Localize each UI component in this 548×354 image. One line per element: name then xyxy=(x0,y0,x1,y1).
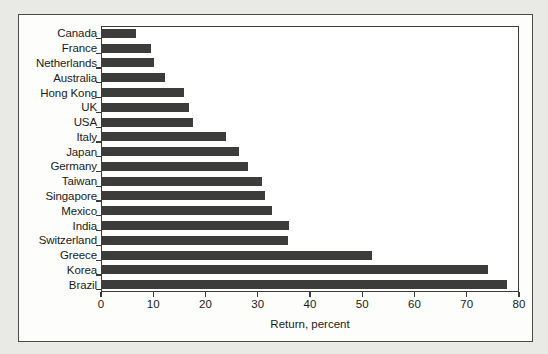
category-label: Singapore xyxy=(19,190,97,202)
category-tick-mark xyxy=(96,186,101,187)
category-tick-mark xyxy=(96,67,101,68)
value-tick-label: 0 xyxy=(98,298,104,310)
figure-container: CanadaFranceNetherlandsAustraliaHong Kon… xyxy=(18,14,533,342)
value-tick-label: 20 xyxy=(199,298,212,310)
category-label: Mexico xyxy=(19,205,97,217)
bar xyxy=(101,251,372,260)
value-tick-mark xyxy=(414,292,415,297)
category-tick-mark xyxy=(96,260,101,261)
category-tick-mark xyxy=(96,127,101,128)
value-tick-mark xyxy=(466,292,467,297)
value-tick-mark xyxy=(518,292,519,297)
bar xyxy=(101,29,136,38)
category-tick-mark xyxy=(96,141,101,142)
value-tick-label: 60 xyxy=(408,298,421,310)
bar-chart: CanadaFranceNetherlandsAustraliaHong Kon… xyxy=(19,15,534,343)
category-label: Germany xyxy=(19,160,97,172)
category-tick-mark xyxy=(96,215,101,216)
bar xyxy=(101,118,193,127)
value-tick-label: 10 xyxy=(147,298,160,310)
value-tick-mark xyxy=(362,292,363,297)
category-label: Taiwan xyxy=(19,175,97,187)
category-tick-mark xyxy=(96,112,101,113)
bar xyxy=(101,44,151,53)
bar xyxy=(101,103,189,112)
category-axis-labels: CanadaFranceNetherlandsAustraliaHong Kon… xyxy=(19,26,97,292)
value-tick-label: 70 xyxy=(460,298,473,310)
value-tick-mark xyxy=(100,292,101,297)
category-tick-mark xyxy=(96,97,101,98)
bar xyxy=(101,58,154,67)
category-tick-mark xyxy=(96,289,101,290)
category-label: USA xyxy=(19,116,97,128)
category-tick-mark xyxy=(96,274,101,275)
value-tick-mark xyxy=(257,292,258,297)
value-tick-mark xyxy=(153,292,154,297)
bar xyxy=(101,147,239,156)
value-tick-mark xyxy=(309,292,310,297)
category-tick-mark xyxy=(96,156,101,157)
category-tick-mark xyxy=(96,53,101,54)
bar xyxy=(101,191,265,200)
category-label: UK xyxy=(19,101,97,113)
category-tick-mark xyxy=(96,38,101,39)
bar xyxy=(101,236,288,245)
bar xyxy=(101,280,507,289)
category-label: Hong Kong xyxy=(19,87,97,99)
bar xyxy=(101,177,262,186)
category-tick-mark xyxy=(96,171,101,172)
category-tick-mark xyxy=(96,82,101,83)
category-label: Switzerland xyxy=(19,234,97,246)
category-label: France xyxy=(19,42,97,54)
bar xyxy=(101,221,289,230)
category-label: Australia xyxy=(19,72,97,84)
bar xyxy=(101,88,184,97)
value-tick-mark xyxy=(205,292,206,297)
bar xyxy=(101,132,226,141)
bar xyxy=(101,265,488,274)
category-label: Japan xyxy=(19,146,97,158)
category-label: Brazil xyxy=(19,279,97,291)
category-tick-mark xyxy=(96,200,101,201)
value-tick-label: 50 xyxy=(356,298,369,310)
category-label: India xyxy=(19,220,97,232)
category-tick-mark xyxy=(96,230,101,231)
category-label: Italy xyxy=(19,131,97,143)
value-tick-label: 40 xyxy=(304,298,317,310)
bar xyxy=(101,73,165,82)
bar xyxy=(101,206,272,215)
category-label: Korea xyxy=(19,264,97,276)
value-tick-label: 30 xyxy=(251,298,264,310)
bar xyxy=(101,162,248,171)
category-label: Canada xyxy=(19,27,97,39)
bars-layer xyxy=(101,26,519,292)
category-label: Netherlands xyxy=(19,57,97,69)
value-tick-label: 80 xyxy=(513,298,526,310)
x-axis-title: Return, percent xyxy=(101,318,519,330)
category-tick-mark xyxy=(96,245,101,246)
category-label: Greece xyxy=(19,249,97,261)
